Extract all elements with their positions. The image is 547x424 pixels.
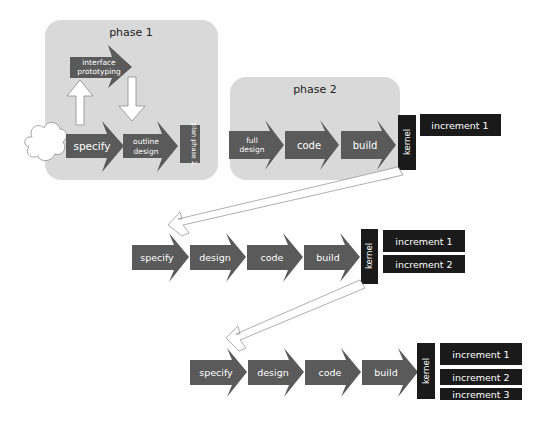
phase-1-group: phase 1 interface prototyping specify ou… xyxy=(25,20,218,180)
iteration-connector-2 xyxy=(226,280,365,351)
increment-1-label-row1: increment 1 xyxy=(431,120,488,131)
specify-label: specify xyxy=(73,140,110,152)
kernel-label-1: kernel xyxy=(402,129,412,155)
phase-2-title: phase 2 xyxy=(293,83,337,96)
kernel-label-2: kernel xyxy=(364,243,374,269)
iteration-2-design-label: design xyxy=(199,252,231,263)
iteration-3-group: specify design code build kernel increme… xyxy=(190,343,522,400)
iteration-3-design-label: design xyxy=(257,367,289,378)
incremental-development-diagram: phase 1 interface prototyping specify ou… xyxy=(0,0,547,424)
full-design-label-2: design xyxy=(240,145,265,154)
kernel-label-3: kernel xyxy=(421,358,431,384)
iteration-3-code-label: code xyxy=(319,367,342,378)
iteration-3-build-label: build xyxy=(374,367,397,378)
outline-design-label-1: outline xyxy=(133,137,159,146)
iteration-2-code-label: code xyxy=(261,252,284,263)
iteration-2-specify-label: specify xyxy=(140,252,174,263)
outline-design-label-2: design xyxy=(134,147,159,156)
interface-prototyping-label-1: interface xyxy=(82,58,116,67)
build-label: build xyxy=(353,140,378,151)
plan-phase-2-label: plan phase 2 xyxy=(190,123,198,165)
phase-1-title: phase 1 xyxy=(109,26,153,39)
increment-1-label-row2: increment 1 xyxy=(395,236,452,247)
iteration-2-group: specify design code build kernel increme… xyxy=(132,229,465,284)
increment-1-label-row3: increment 1 xyxy=(452,349,509,360)
increment-2-label-row3: increment 2 xyxy=(452,372,509,383)
full-design-label-1: full xyxy=(246,136,258,145)
code-label: code xyxy=(297,140,321,151)
iteration-3-specify-label: specify xyxy=(199,367,233,378)
increment-2-label-row2: increment 2 xyxy=(395,259,452,270)
phase-2-group: phase 2 full design code build xyxy=(229,77,400,180)
interface-prototyping-label-2: prototyping xyxy=(77,67,121,76)
increment-3-label-row3: increment 3 xyxy=(452,389,509,400)
iteration-2-build-label: build xyxy=(316,252,339,263)
